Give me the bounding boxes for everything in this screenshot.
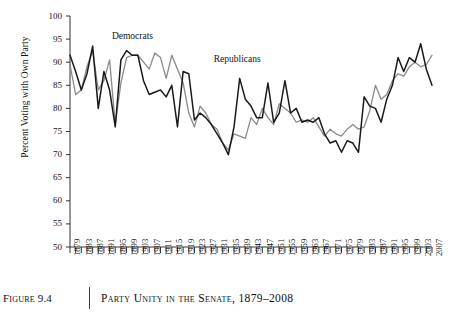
series-annotation-republicans: Republicans <box>214 54 261 64</box>
x-axis-tick-label: 1899 <box>130 239 139 256</box>
y-axis-tick-label: 50 <box>36 243 62 252</box>
y-axis-tick-label: 70 <box>36 150 62 159</box>
x-axis-tick-label: 1995 <box>401 239 410 256</box>
series-line-democrats <box>70 51 432 150</box>
x-axis-tick-label: 1879 <box>73 239 82 256</box>
figure-caption: Figure 9.4 Party Unity in the Senate, 18… <box>0 283 453 313</box>
x-axis-tick-label: 1919 <box>187 239 196 256</box>
x-axis-tick-label: 1967 <box>322 239 331 256</box>
y-axis-tick-label: 55 <box>36 219 62 228</box>
x-axis-tick-label: 1939 <box>243 239 252 256</box>
caption-divider <box>89 287 90 309</box>
x-axis-tick-label: 1943 <box>254 239 263 256</box>
y-axis-tick-label: 95 <box>36 35 62 44</box>
x-axis-tick-label: 1891 <box>107 239 116 256</box>
y-axis-tick-label: 75 <box>36 127 62 136</box>
x-axis-tick-label: 1935 <box>232 239 241 256</box>
y-axis-tick-label: 100 <box>36 12 62 21</box>
x-axis-tick-label: 1895 <box>119 239 128 256</box>
x-axis-tick-label: 1887 <box>96 239 105 256</box>
x-axis-tick-label: 1947 <box>266 239 275 256</box>
y-axis-title: Percent Voting with Own Party <box>20 12 30 182</box>
x-axis-tick-label: 1923 <box>198 239 207 256</box>
x-axis-tick-label: 1963 <box>311 239 320 256</box>
chart-plot-region: Percent Voting with Own Party 1009590858… <box>0 0 453 280</box>
figure-number-label: Figure 9.4 <box>0 292 89 304</box>
x-axis-tick-label: 1927 <box>209 239 218 256</box>
x-axis-tick-label: 1883 <box>85 239 94 256</box>
x-axis-tick-label: 1979 <box>356 239 365 256</box>
x-axis-tick-label: 1951 <box>277 239 286 256</box>
x-axis-tick-label: 1915 <box>175 239 184 256</box>
y-axis-tick-label: 80 <box>36 104 62 113</box>
y-axis-tick-label: 90 <box>36 58 62 67</box>
y-axis-tick-label: 85 <box>36 81 62 90</box>
y-axis-tick-label: 60 <box>36 196 62 205</box>
series-annotation-democrats: Democrats <box>112 31 153 41</box>
y-axis-ticks <box>66 16 70 247</box>
x-axis-tick-label: 1975 <box>345 239 354 256</box>
figure-title-label: Party Unity in the Senate, 1879–2008 <box>101 292 293 304</box>
x-axis-tick-label: 1955 <box>288 239 297 256</box>
x-axis-tick-label: 1971 <box>334 239 343 256</box>
x-axis-tick-label: 1991 <box>390 239 399 256</box>
x-axis-tick-label: 1903 <box>141 239 150 256</box>
axis-lines <box>70 16 432 247</box>
x-axis-tick-label: 1987 <box>379 239 388 256</box>
x-axis-tick-label: 1999 <box>413 239 422 256</box>
x-axis-tick-label: 1959 <box>300 239 309 256</box>
x-axis-tick-label: 1911 <box>164 239 173 256</box>
x-axis-tick-label: 2007 <box>435 239 444 256</box>
figure-party-unity-senate: Percent Voting with Own Party 1009590858… <box>0 0 453 313</box>
x-axis-tick-label: 1907 <box>153 239 162 256</box>
x-axis-tick-label: 2003 <box>424 239 433 256</box>
y-axis-tick-label: 65 <box>36 173 62 182</box>
x-axis-tick-label: 1931 <box>220 239 229 256</box>
x-axis-tick-label: 1983 <box>368 239 377 256</box>
